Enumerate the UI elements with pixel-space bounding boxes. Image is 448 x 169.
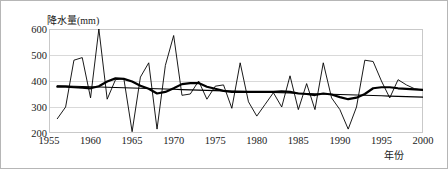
x-axis-title: 年份	[384, 147, 404, 162]
x-tick-0: 1955	[27, 135, 71, 146]
x-tick-4: 1975	[193, 135, 237, 146]
x-tick-2: 1965	[110, 135, 154, 146]
y-axis-tick-labels: 200 300 400 500 600	[7, 29, 47, 133]
y-tick-3: 500	[13, 50, 47, 61]
y-tick-2: 400	[13, 76, 47, 87]
x-tick-1: 1960	[69, 135, 113, 146]
y-tick-4: 600	[13, 24, 47, 35]
x-axis-tick-labels: 1955 1960 1965 1970 1975 1980 1985 1990 …	[49, 135, 423, 149]
y-tick-1: 300	[13, 102, 47, 113]
x-tick-5: 1980	[235, 135, 279, 146]
x-tick-3: 1970	[152, 135, 196, 146]
chart-svg	[49, 29, 423, 133]
plot-area	[49, 29, 423, 133]
x-tick-6: 1985	[276, 135, 320, 146]
x-tick-8: 1995	[359, 135, 403, 146]
data-series-group	[57, 29, 423, 132]
x-tick-7: 1990	[318, 135, 362, 146]
y-axis-title: 降水量(mm)	[47, 12, 99, 27]
x-tick-9: 2000	[401, 135, 445, 146]
chart-figure: 降水量(mm) 年份 200 300 400 500 600 1955 1960…	[0, 0, 448, 169]
